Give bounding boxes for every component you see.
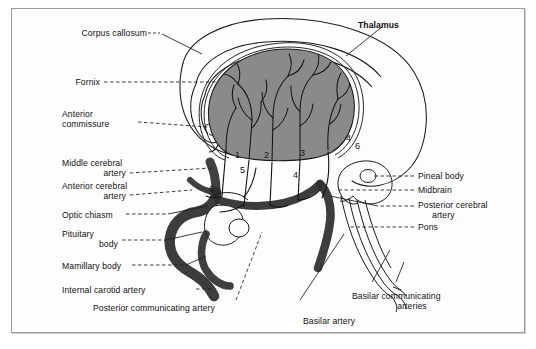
label-anterior-cerebral-artery-line2: artery (62, 191, 126, 202)
label-pituitary-body-line2: body (62, 239, 118, 250)
label-posterior-communicating-artery: Posterior communicating artery (93, 303, 293, 314)
callout-number-1: 1 (235, 150, 240, 160)
callout-number-6b: 6 (209, 184, 214, 194)
label-basilar-communicating-arteries-line1: Basilar communicating (352, 291, 472, 302)
label-posterior-cerebral-artery-line1: Posterior cerebral (418, 200, 522, 211)
callout-number-6a: 6 (355, 141, 360, 151)
callout-number-5: 5 (240, 165, 245, 175)
label-basilar-communicating-arteries-line2: arteries (352, 301, 472, 312)
label-corpus-callosum: Corpus callosum (10, 28, 147, 39)
thalamus-body (208, 49, 354, 162)
label-pons: Pons (418, 222, 488, 233)
circle-of-willis (170, 162, 331, 296)
label-optic-chiasm: Optic chiasm (62, 210, 152, 221)
label-pineal-body: Pineal body (418, 171, 512, 182)
callout-number-3: 3 (300, 148, 305, 158)
callout-number-4a: 4 (346, 133, 351, 143)
callout-number-4b: 4 (293, 170, 298, 180)
label-midbrain: Midbrain (418, 185, 512, 196)
brainstem-outline (341, 196, 401, 297)
label-mamillary-body: Mamillary body (62, 261, 168, 272)
label-internal-carotid-artery: Internal carotid artery (62, 285, 202, 296)
label-basilar-artery: Basilar artery (303, 316, 393, 327)
label-middle-cerebral-artery-line2: artery (62, 168, 126, 179)
label-anterior-commissure-line1: Anterior (62, 109, 152, 120)
callout-number-2: 2 (264, 150, 269, 160)
label-middle-cerebral-artery-line1: Middle cerebral (62, 158, 162, 169)
label-posterior-cerebral-artery-line2: artery (432, 210, 502, 221)
figure-page: Corpus callosum Fornix Anterior commissu… (0, 0, 536, 349)
label-pituitary-body-line1: Pituitary (62, 229, 142, 240)
pineal-body-shape (360, 170, 376, 183)
label-fornix: Fornix (10, 77, 100, 88)
label-thalamus: Thalamus (358, 20, 438, 31)
label-anterior-cerebral-artery-line1: Anterior cerebral (62, 181, 166, 192)
label-anterior-commissure-line2: commissure (62, 119, 152, 130)
